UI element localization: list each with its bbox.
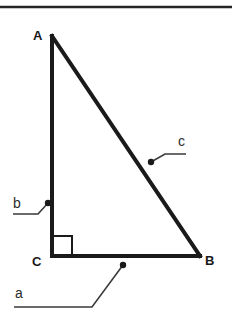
right-triangle-diagram: A B C c b a — [0, 0, 232, 324]
vertex-label-a-group: A — [33, 28, 43, 43]
side-label-c: c — [178, 133, 185, 149]
side-label-a: a — [15, 285, 23, 301]
leader-dot-c — [148, 159, 154, 165]
side-label-b: b — [13, 195, 21, 211]
vertex-label-c-group: C — [32, 254, 42, 269]
vertex-label-B: B — [205, 253, 214, 268]
geometry-figure-canvas: A B C c b a — [0, 0, 232, 324]
vertex-label-C: C — [32, 254, 42, 269]
vertex-label-A: A — [33, 28, 43, 43]
leader-dot-a — [120, 262, 126, 268]
leader-dot-b — [45, 200, 51, 206]
vertex-label-b-group: B — [205, 253, 214, 268]
